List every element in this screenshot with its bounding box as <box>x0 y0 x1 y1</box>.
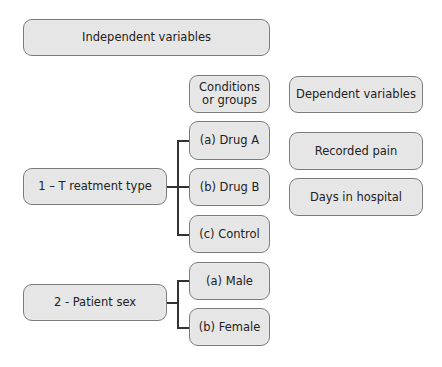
dependent-variables-header-label: Dependent variables <box>296 88 416 101</box>
condition-drug-b-label: (b) Drug B <box>200 181 260 194</box>
connector-treatment-vertical <box>177 141 179 235</box>
connector-control <box>177 234 189 236</box>
condition-control: (c) Control <box>189 215 270 253</box>
connector-sex-vertical <box>177 280 179 328</box>
condition-drug-a: (a) Drug A <box>189 121 270 160</box>
independent-variables-header: Independent variables <box>23 19 270 56</box>
iv-treatment-type: 1 – T reatment type <box>23 168 167 205</box>
connector-drug-b <box>177 186 189 188</box>
condition-female-label: (b) Female <box>199 321 261 334</box>
condition-male: (a) Male <box>189 262 270 300</box>
condition-control-label: (c) Control <box>199 228 260 241</box>
condition-female: (b) Female <box>189 308 270 346</box>
condition-drug-b: (b) Drug B <box>189 168 270 206</box>
iv-treatment-type-label: 1 – T reatment type <box>38 180 152 193</box>
connector-male <box>177 280 189 282</box>
dependent-variables-header: Dependent variables <box>289 76 423 113</box>
conditions-header-label: Conditions or groups <box>199 81 260 107</box>
connector-drug-a <box>177 140 189 142</box>
dv-days-in-hospital-label: Days in hospital <box>310 191 402 204</box>
dv-recorded-pain: Recorded pain <box>289 132 423 170</box>
iv-patient-sex: 2 - Patient sex <box>23 284 167 321</box>
independent-variables-header-label: Independent variables <box>82 31 211 44</box>
connector-female <box>177 327 189 329</box>
condition-drug-a-label: (a) Drug A <box>200 134 259 147</box>
dv-recorded-pain-label: Recorded pain <box>315 145 398 158</box>
dv-days-in-hospital: Days in hospital <box>289 178 423 216</box>
iv-patient-sex-label: 2 - Patient sex <box>54 296 136 309</box>
conditions-header: Conditions or groups <box>189 75 270 113</box>
condition-male-label: (a) Male <box>206 275 253 288</box>
